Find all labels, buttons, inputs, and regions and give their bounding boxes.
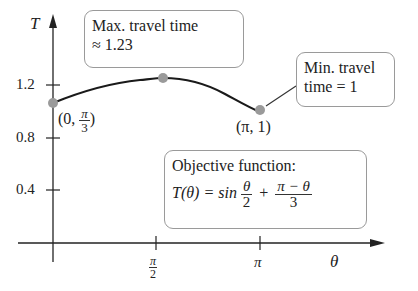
min-leader-line	[266, 86, 296, 106]
max-line-2: ≈ 1.23	[92, 35, 236, 54]
end-point-label: (π, 1)	[236, 118, 271, 136]
max-travel-time-box: Max. travel time ≈ 1.23	[84, 10, 244, 68]
x-axis-arrow-icon	[370, 239, 385, 247]
min-line-2: time = 1	[304, 77, 387, 96]
objective-title: Objective function:	[172, 156, 359, 175]
x-tick-label-pi: π	[254, 254, 262, 271]
y-tick-label-0.4: 0.4	[16, 181, 35, 198]
y-tick-label-0.8: 0.8	[16, 129, 35, 146]
x-tick-label-pi-half: π2	[149, 255, 157, 280]
max-line-1: Max. travel time	[92, 16, 236, 35]
y-tick-label-1.2: 1.2	[16, 76, 35, 93]
start-point	[48, 98, 58, 108]
objective-function-box: Objective function: T(θ) = sin θ2 + π − …	[164, 150, 367, 229]
min-travel-time-box: Min. travel time = 1	[296, 52, 395, 107]
x-axis-label: θ	[330, 252, 338, 272]
y-axis-label: T	[30, 14, 39, 34]
max-point	[158, 73, 168, 83]
y-axis-arrow-icon	[49, 14, 57, 28]
start-point-label: (0, π3)	[58, 107, 95, 134]
min-point	[255, 105, 265, 115]
objective-formula: T(θ) = sin θ2 + π − θ3	[172, 179, 359, 210]
min-line-1: Min. travel	[304, 58, 387, 77]
